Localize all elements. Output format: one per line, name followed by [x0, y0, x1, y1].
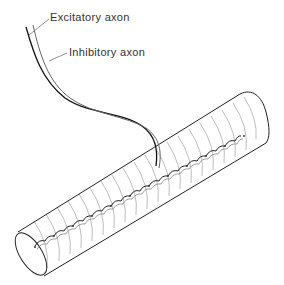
excitatory-leader-line	[29, 19, 49, 35]
terminal-dots	[34, 135, 245, 248]
diagram-canvas: Excitatory axon Inhibitory axon	[0, 0, 284, 285]
inhibitory-axon-label: Inhibitory axon	[69, 47, 145, 58]
excitatory-axon-label: Excitatory axon	[50, 12, 130, 23]
inhibitory-leader-line	[49, 53, 67, 61]
nerve-terminals	[35, 136, 243, 249]
muscle-striations	[34, 97, 256, 268]
muscle-fiber-innervation-diagram	[0, 0, 284, 285]
muscle-fiber-outline	[9, 92, 269, 280]
